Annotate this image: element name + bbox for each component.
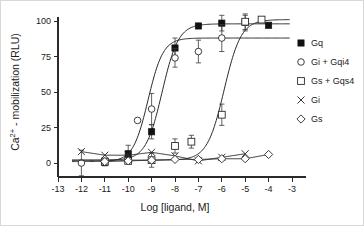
x-tick-label: -10: [122, 184, 135, 194]
data-point-marker: [241, 155, 249, 163]
y-tick-label: 50: [41, 87, 51, 97]
legend-item-gq[interactable]: Gq: [298, 38, 323, 48]
series-gs-gqs4: [72, 16, 290, 167]
y-tick-label: 75: [41, 52, 51, 62]
series-curve: [72, 24, 290, 160]
data-point-marker: [148, 106, 155, 113]
dose-response-plot: 0255075100-13-12-11-10-9-8-7-6-5-4-3 Log…: [1, 1, 364, 226]
series-gq: [72, 14, 290, 166]
series-layer: [72, 14, 290, 176]
data-point-marker: [195, 48, 202, 55]
data-point-marker: [188, 138, 195, 145]
legend-label: Gi: [311, 95, 320, 105]
x-axis-title: Log [ligand, M]: [141, 201, 210, 213]
data-point-marker: [298, 59, 305, 66]
y-axis-title: Ca2+ - mobilization (RLU): [8, 33, 22, 151]
x-tick-label: -7: [194, 184, 202, 194]
y-tick-label: 25: [41, 123, 51, 133]
x-tick-label: -13: [51, 184, 64, 194]
axes-layer: 0255075100-13-12-11-10-9-8-7-6-5-4-3: [36, 16, 306, 194]
x-tick-label: -3: [288, 184, 296, 194]
x-tick-label: -5: [241, 184, 249, 194]
data-point-marker: [195, 23, 201, 29]
data-point-marker: [297, 115, 305, 123]
data-point-marker: [265, 150, 273, 158]
y-tick-label: 100: [36, 16, 51, 26]
data-point-marker: [172, 143, 179, 150]
legend-item-gs[interactable]: Gs: [297, 114, 323, 124]
chart-figure: 0255075100-13-12-11-10-9-8-7-6-5-4-3 Log…: [0, 0, 364, 226]
data-point-marker: [258, 16, 265, 23]
x-tick-label: -9: [148, 184, 156, 194]
data-point-marker: [298, 97, 305, 104]
data-point-marker: [218, 111, 225, 118]
data-point-marker: [78, 160, 85, 167]
chart-legend: GqGi + Gqi4Gs + Gqs4GiGs: [297, 38, 354, 124]
data-point-marker: [172, 55, 179, 62]
series-curve: [72, 20, 290, 161]
series-gi-gqi4: [72, 15, 290, 175]
data-point-marker: [149, 129, 155, 135]
data-point-marker: [219, 35, 226, 42]
legend-item-gs-gqs4[interactable]: Gs + Gqs4: [298, 76, 355, 86]
legend-label: Gs + Gqs4: [311, 76, 354, 86]
legend-label: Gs: [311, 114, 323, 124]
data-point-marker: [298, 40, 304, 46]
x-tick-label: -6: [218, 184, 226, 194]
legend-label: Gi + Gqi4: [311, 57, 349, 67]
data-point-marker: [218, 155, 226, 163]
series-curve: [72, 38, 290, 162]
legend-item-gi-gqi4[interactable]: Gi + Gqi4: [298, 57, 350, 67]
legend-item-gi[interactable]: Gi: [298, 95, 321, 105]
legend-label: Gq: [311, 38, 323, 48]
x-tick-label: -4: [265, 184, 273, 194]
data-point-marker: [266, 22, 272, 28]
x-tick-label: -11: [99, 184, 111, 194]
y-tick-label: 0: [46, 158, 51, 168]
x-tick-label: -12: [75, 184, 88, 194]
data-point-marker: [242, 18, 249, 25]
data-point-marker: [298, 78, 305, 85]
x-tick-label: -8: [171, 184, 179, 194]
data-point-marker: [134, 117, 141, 124]
data-point-marker: [194, 155, 202, 163]
